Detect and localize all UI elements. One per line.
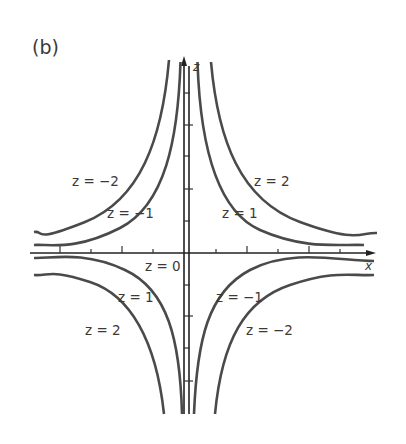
x-axis-arrow-icon: [366, 250, 376, 256]
label-lower-right-inner: z = −1: [216, 289, 263, 305]
label-upper-right-outer: z = 2: [254, 173, 290, 189]
label-upper-right-inner: z = 1: [222, 205, 258, 221]
contour-diagram: z x z = −2 z = −1 z = 2 z = 1 z = 0 z = …: [0, 0, 406, 444]
label-lower-left-inner: z = 1: [118, 289, 154, 305]
label-upper-left-outer: z = −2: [72, 173, 119, 189]
z-axis-arrow-icon: [181, 56, 187, 66]
label-axis-level: z = 0: [145, 258, 181, 274]
x-axis: [30, 250, 376, 256]
x-axis-label: x: [364, 259, 373, 273]
z-axis: [181, 56, 189, 414]
label-lower-right-outer: z = −2: [246, 322, 293, 338]
label-upper-left-inner: z = −1: [107, 205, 154, 221]
z-axis-label: z: [192, 60, 200, 74]
label-lower-left-outer: z = 2: [85, 322, 121, 338]
x-axis-ticks: [60, 246, 340, 253]
